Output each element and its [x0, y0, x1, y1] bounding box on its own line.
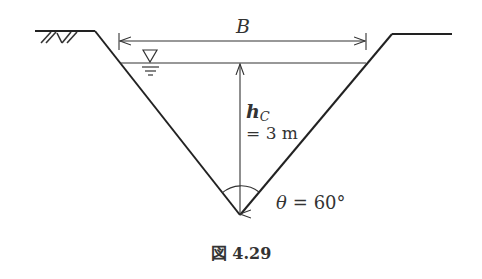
depth-value: = 3 m: [246, 123, 298, 143]
left-channel-bank: [95, 31, 240, 215]
triangular-channel-diagram: B hC = 3 m θ= 60° 図 4.29: [0, 0, 482, 279]
left-ground-surface: [35, 31, 95, 43]
width-dimension: B: [119, 15, 366, 50]
width-label: B: [235, 15, 250, 37]
depth-dimension: hC = 3 m: [240, 64, 298, 214]
ground-hatching-icon: [41, 32, 77, 43]
figure-caption: 図 4.29: [211, 244, 272, 263]
depth-label: hC: [246, 100, 270, 124]
angle-label: θ= 60°: [276, 192, 346, 213]
